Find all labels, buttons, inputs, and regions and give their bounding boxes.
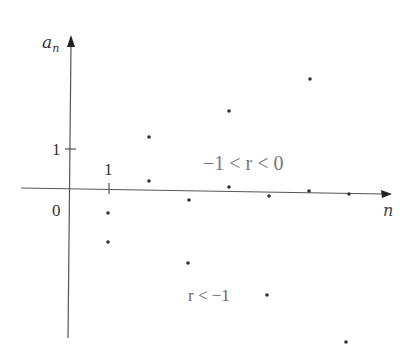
data-point <box>106 240 110 244</box>
data-point <box>344 340 348 344</box>
y-tick-label-1: 1 <box>52 140 61 159</box>
x-axis-label: n <box>383 201 393 220</box>
y-axis <box>67 35 75 338</box>
x-tick-label-1: 1 <box>104 160 113 179</box>
data-point <box>265 293 269 297</box>
annotation-small-r: −1 < r < 0 <box>203 152 284 174</box>
data-point <box>307 189 311 193</box>
data-point <box>267 194 271 198</box>
data-point <box>187 198 191 202</box>
x-axis <box>21 188 392 198</box>
y-axis-arrow-icon <box>67 35 75 47</box>
annotation-large-r: r < −1 <box>188 286 230 305</box>
x-axis-arrow-icon <box>381 190 392 198</box>
data-point <box>147 179 151 183</box>
data-point <box>308 77 312 81</box>
data-point <box>147 135 151 139</box>
data-point <box>186 261 190 265</box>
geometric-sequence-plot: an n 0 1 1 −1 < r < 0 r < −1 <box>0 0 400 349</box>
series-r-between-minus-1-and-0 <box>106 179 351 215</box>
data-point <box>227 109 231 113</box>
data-point <box>227 185 231 189</box>
data-point <box>106 211 110 215</box>
y-axis-label: an <box>42 32 59 55</box>
origin-label: 0 <box>52 201 61 220</box>
data-point <box>347 192 351 196</box>
